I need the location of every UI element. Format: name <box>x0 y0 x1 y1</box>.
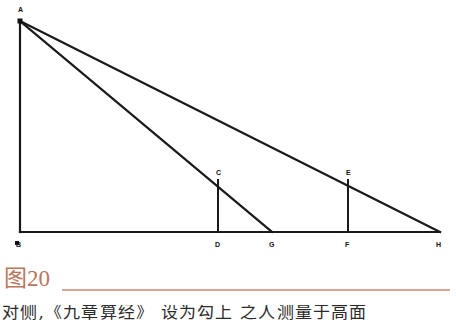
vertex-label-A: A <box>18 6 23 13</box>
body-text-line: 对侧,《九章算经》 设为勾上 之人测量于高面 <box>2 305 454 323</box>
body-text-clipped-region: 对侧,《九章算经》 设为勾上 之人测量于高面 <box>0 305 456 325</box>
figure-caption-rule <box>62 289 450 291</box>
vertex-label-C: C <box>216 169 221 176</box>
vertex-label-D: D <box>215 241 220 248</box>
segment-AH-hypotenuse <box>20 21 440 232</box>
vertex-dot-A <box>18 19 23 24</box>
figure-page: A B C D E F G H 图20 对侧,《九章算经》 设为勾上 之人测量于… <box>0 0 456 325</box>
vertex-label-B: B <box>16 241 21 248</box>
vertex-label-F: F <box>345 241 350 248</box>
figure-caption-block: 图20 <box>0 262 456 302</box>
segment-AG-inner-diagonal <box>20 21 272 232</box>
figure-caption-text: 图20 <box>4 265 50 293</box>
vertex-label-H: H <box>436 241 441 248</box>
geometry-figure: A B C D E F G H <box>0 0 456 262</box>
vertex-label-G: G <box>269 241 275 248</box>
vertex-label-E: E <box>346 169 351 176</box>
